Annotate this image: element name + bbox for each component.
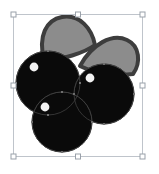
- anchor-point[interactable]: [47, 114, 49, 116]
- anchor-point[interactable]: [61, 151, 63, 153]
- anchor-point[interactable]: [103, 123, 105, 125]
- anchor-point[interactable]: [91, 121, 93, 123]
- handle-middle-left[interactable]: [11, 83, 16, 88]
- anchor-point[interactable]: [133, 93, 135, 95]
- vector-canvas[interactable]: Berry cluster clipart: [0, 0, 159, 174]
- berry-highlight-icon: [30, 63, 39, 72]
- handle-bottom-center[interactable]: [76, 154, 81, 159]
- anchor-point[interactable]: [103, 63, 105, 65]
- anchor-point[interactable]: [73, 93, 75, 95]
- anchor-point[interactable]: [47, 50, 49, 52]
- handle-top-center[interactable]: [76, 12, 81, 17]
- handle-middle-right[interactable]: [140, 83, 145, 88]
- anchor-point[interactable]: [79, 82, 81, 84]
- berry-highlight-icon: [86, 74, 95, 83]
- anchor-point[interactable]: [31, 121, 33, 123]
- handle-top-left[interactable]: [11, 12, 16, 17]
- handle-top-right[interactable]: [140, 12, 145, 17]
- berry-highlight-icon: [41, 103, 50, 112]
- handle-bottom-right[interactable]: [140, 154, 145, 159]
- berry-cluster-group[interactable]: [15, 17, 138, 153]
- anchor-point[interactable]: [61, 91, 63, 93]
- handle-bottom-left[interactable]: [11, 154, 16, 159]
- artwork-and-selection-layer[interactable]: [0, 0, 159, 174]
